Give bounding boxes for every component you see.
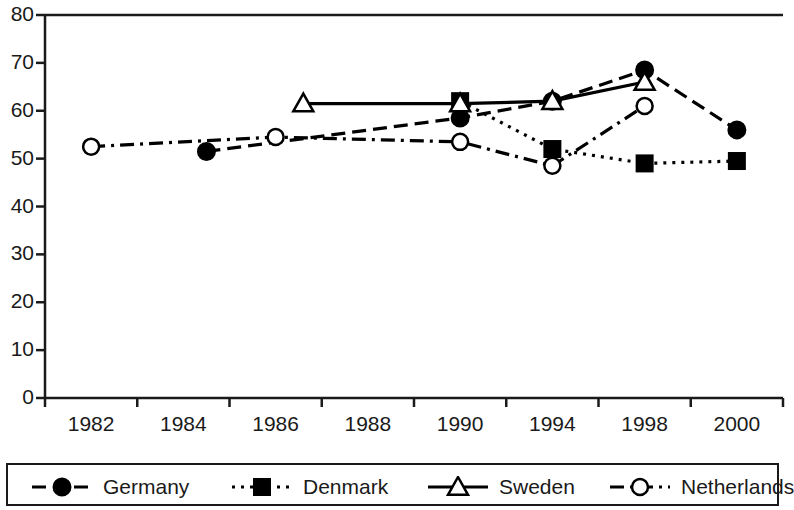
legend-item-germany[interactable]: Germany (30, 465, 189, 508)
x-tick-label: 1986 (230, 412, 322, 436)
legend-label: Netherlands (681, 475, 794, 499)
series-markers (83, 62, 745, 174)
legend-item-netherlands[interactable]: Netherlands (608, 465, 794, 508)
legend-label: Germany (103, 475, 189, 499)
x-tick-label: 1988 (322, 412, 414, 436)
y-tick-marks (36, 15, 45, 398)
legend-label: Sweden (499, 475, 575, 499)
y-tick-label: 50 (0, 146, 34, 170)
x-tick-label: 1982 (45, 412, 137, 436)
legend-swatch-open-triangle-icon (426, 476, 490, 498)
data-point-marker (544, 158, 560, 174)
x-tick-label: 1998 (599, 412, 691, 436)
x-tick-label: 1994 (506, 412, 598, 436)
legend-item-denmark[interactable]: Denmark (230, 465, 388, 508)
legend-swatch-filled-square-icon (230, 476, 294, 498)
legend-item-sweden[interactable]: Sweden (426, 465, 575, 508)
data-point-marker (83, 139, 99, 155)
y-tick-label: 20 (0, 289, 34, 313)
y-tick-label: 30 (0, 241, 34, 265)
series-line (303, 82, 644, 104)
data-point-marker (637, 98, 653, 114)
legend-swatch-filled-circle-icon (30, 476, 94, 498)
plot-area (0, 0, 787, 455)
data-point-marker (254, 479, 270, 495)
y-tick-label: 80 (0, 2, 34, 26)
data-point-marker (729, 153, 745, 169)
data-point-marker (728, 121, 745, 138)
x-tick-marks (45, 398, 783, 407)
legend-label: Denmark (303, 475, 388, 499)
y-tick-label: 40 (0, 194, 34, 218)
data-point-marker (544, 141, 560, 157)
y-tick-label: 60 (0, 98, 34, 122)
data-point-marker (632, 479, 648, 495)
x-tick-label: 1984 (137, 412, 229, 436)
y-tick-label: 0 (0, 385, 34, 409)
x-tick-label: 1990 (414, 412, 506, 436)
y-tick-label: 70 (0, 50, 34, 74)
data-point-marker (637, 155, 653, 171)
data-point-marker (268, 129, 284, 145)
data-point-marker (198, 143, 215, 160)
legend-swatch-open-circle-icon (608, 476, 672, 498)
chart-legend: GermanyDenmarkSwedenNetherlands (6, 463, 779, 506)
y-tick-label: 10 (0, 337, 34, 361)
data-point-marker (54, 478, 71, 495)
series-line (206, 70, 736, 151)
data-point-marker (452, 134, 468, 150)
chart-axes (45, 15, 783, 398)
x-tick-label: 2000 (691, 412, 783, 436)
series-line (91, 106, 645, 166)
